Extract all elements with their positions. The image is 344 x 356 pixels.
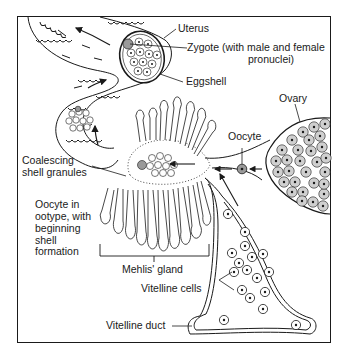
ovary-drawing (266, 118, 331, 214)
label-ootype-line3: beginning (35, 223, 81, 235)
diagram-figure: Uterus Zygote (with male and female pron… (0, 0, 344, 356)
label-eggshell: Eggshell (186, 76, 226, 88)
label-uterus: Uterus (178, 23, 209, 35)
label-vitelline-cells: Vitelline cells (141, 283, 202, 295)
label-zygote: Zygote (with male and female (187, 42, 325, 54)
label-ootype-line2: ootype, with (35, 211, 91, 223)
oocyte-drawing (237, 164, 247, 174)
label-ovary: Ovary (279, 93, 307, 105)
label-coalescing: Coalescing (22, 155, 74, 167)
label-ootype: Oocyte in (35, 199, 79, 211)
label-ootype-line5: formation (35, 246, 79, 258)
vitelline-cells-drawing (219, 209, 300, 329)
label-mehlis-gland: Mehlis' gland (122, 264, 183, 276)
mehlis-gland-lower (100, 181, 210, 251)
egg-drawing (114, 26, 170, 88)
label-oocyte: Oocyte (228, 131, 261, 143)
label-zygote-line2: pronuclei) (248, 54, 294, 66)
label-coalescing-line2: shell granules (22, 167, 87, 179)
label-vitelline-duct: Vitelline duct (106, 320, 165, 332)
